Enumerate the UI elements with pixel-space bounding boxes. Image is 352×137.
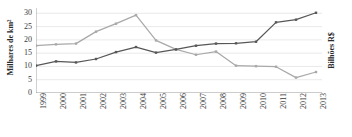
data-point: [115, 51, 117, 53]
x-tick-label: 2008: [219, 93, 228, 109]
data-point: [195, 45, 197, 47]
x-tick-label: 2005: [159, 93, 168, 109]
x-tick-label: 2004: [139, 93, 148, 109]
gridlines: [36, 13, 322, 93]
x-axis-tick-labels: 1999200020012002200320042005200620072008…: [36, 93, 322, 137]
x-tick-label: 1999: [39, 93, 48, 109]
data-point: [255, 41, 257, 43]
y-tick-label: 0: [16, 89, 32, 97]
data-point: [36, 45, 37, 47]
data-point: [55, 43, 57, 45]
data-point: [36, 64, 37, 66]
data-point: [315, 71, 317, 73]
data-point: [155, 51, 157, 53]
series-line: [36, 13, 316, 66]
series-2: [36, 12, 317, 67]
y-axis-tick-labels: 302520151050: [14, 0, 32, 137]
data-point: [255, 65, 257, 67]
data-point: [295, 18, 297, 20]
plot-area: [36, 8, 322, 93]
y-tick-label: 20: [16, 36, 32, 44]
x-tick-label: 2012: [299, 93, 308, 109]
data-point: [275, 21, 277, 23]
y-tick-label: 30: [16, 9, 32, 17]
data-point: [195, 54, 197, 56]
data-point: [155, 39, 157, 41]
data-point: [215, 50, 217, 52]
data-point: [235, 64, 237, 66]
data-point: [75, 42, 77, 44]
y-tick-label: 5: [16, 76, 32, 84]
y-axis-right-title: Bilhões R$: [327, 12, 336, 90]
line-chart: Milhares de km² Bilhões R$ 302520151050 …: [0, 0, 352, 137]
data-point: [315, 12, 317, 14]
x-tick-label: 2000: [59, 93, 68, 109]
data-point: [75, 61, 77, 63]
data-point: [95, 58, 97, 60]
x-tick-label: 2007: [199, 93, 208, 109]
x-tick-label: 2011: [279, 93, 288, 109]
x-tick-label: 2010: [259, 93, 268, 109]
x-tick-label: 2006: [179, 93, 188, 109]
data-point: [135, 46, 137, 48]
data-point: [55, 60, 57, 62]
x-tick-label: 2002: [99, 93, 108, 109]
y-tick-label: 10: [16, 62, 32, 70]
data-point: [235, 42, 237, 44]
x-tick-label: 2001: [79, 93, 88, 109]
data-point: [215, 42, 217, 44]
data-point: [175, 48, 177, 50]
series-layer: [36, 12, 317, 79]
data-point: [295, 76, 297, 78]
x-tick-label: 2003: [119, 93, 128, 109]
data-point: [95, 30, 97, 32]
x-tick-label: 2009: [239, 93, 248, 109]
y-tick-label: 25: [16, 23, 32, 31]
plot-svg: [36, 8, 322, 93]
x-tick-label: 2013: [319, 93, 328, 109]
y-tick-label: 15: [16, 49, 32, 57]
data-point: [275, 66, 277, 68]
data-point: [115, 22, 117, 24]
data-point: [135, 14, 137, 16]
